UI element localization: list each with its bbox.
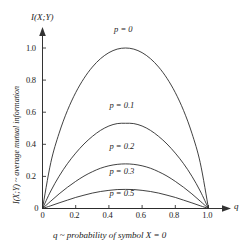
curve-label-p-0-1: p = 0.1: [109, 101, 134, 110]
y-axis-ticks: [43, 48, 47, 176]
axes: [39, 27, 231, 212]
x-tick-label-4: 0.8: [169, 211, 179, 220]
curve-label-p-0-2: p = 0.2: [109, 142, 134, 151]
curve-p-0: [43, 48, 209, 209]
x-axis-arrow-icon: [222, 205, 231, 212]
x-axis-symbol-label: q: [234, 202, 239, 211]
x-tick-label-1: 0.2: [69, 211, 79, 220]
y-axis-symbol-label: I(X;Y): [31, 13, 54, 22]
x-axis-ticks: [43, 205, 209, 209]
y-tick-label-2: 0.4: [26, 140, 36, 149]
x-tick-label-5: 1.0: [202, 211, 212, 220]
y-tick-label-5: 1.0: [26, 44, 36, 53]
y-tick-label-0: 0: [34, 204, 38, 213]
data-curves: [43, 48, 209, 209]
x-tick-label-0: 0: [40, 211, 44, 220]
curve-label-p-0-5: p = 0.5: [109, 189, 134, 198]
curve-label-p-0-3: p = 0.3: [109, 167, 134, 176]
y-axis-title: I(X;Y) ~ average mutual information: [12, 86, 21, 204]
y-axis-arrow-icon: [39, 27, 46, 36]
y-tick-label-3: 0.6: [26, 108, 36, 117]
x-tick-label-2: 0.4: [103, 211, 113, 220]
x-axis-title: q ~ probability of symbol X = 0: [53, 231, 166, 240]
chart-figure: I(X;Y) q I(X;Y) ~ average mutual informa…: [0, 0, 250, 248]
y-tick-label-4: 0.8: [26, 76, 36, 85]
curve-label-p-0: p = 0: [114, 25, 133, 34]
y-tick-label-1: 0.2: [26, 172, 36, 181]
x-tick-label-3: 0.6: [136, 211, 146, 220]
